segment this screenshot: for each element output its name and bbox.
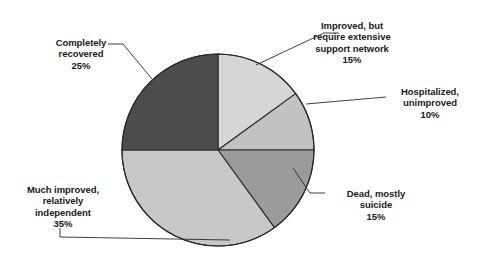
pie-label-hospitalized-text: Hospitalized, unimproved — [401, 86, 459, 109]
pie-label-dead-suicide-value: 15% — [324, 211, 428, 223]
pie-label-completely-recovered-text: Completely recovered — [56, 37, 107, 60]
pie-label-hospitalized: Hospitalized, unimproved 10% — [382, 74, 478, 132]
pie-label-dead-suicide-text: Dead, mostly suicide — [347, 188, 406, 211]
pie-label-dead-suicide: Dead, mostly suicide 15% — [324, 176, 428, 234]
pie-label-hospitalized-value: 10% — [382, 109, 478, 121]
pie-label-improved-support-text: Improved, but require extensive support … — [313, 20, 390, 54]
pie-label-completely-recovered-value: 25% — [30, 60, 132, 72]
pie-label-improved-support-value: 15% — [286, 54, 418, 66]
pie-label-much-improved-text: Much improved, relatively independent — [27, 184, 99, 218]
pie-label-much-improved-value: 35% — [2, 218, 124, 230]
pie-chart-figure: Improved, but require extensive support … — [0, 0, 481, 261]
pie-slices — [122, 54, 314, 246]
pie-label-completely-recovered: Completely recovered 25% — [30, 25, 132, 83]
pie-label-improved-support: Improved, but require extensive support … — [286, 8, 418, 78]
pie-slice-completely-recovered[interactable] — [122, 54, 218, 150]
leader-line-hospitalized — [306, 97, 386, 104]
pie-label-much-improved: Much improved, relatively independent 35… — [2, 172, 124, 242]
